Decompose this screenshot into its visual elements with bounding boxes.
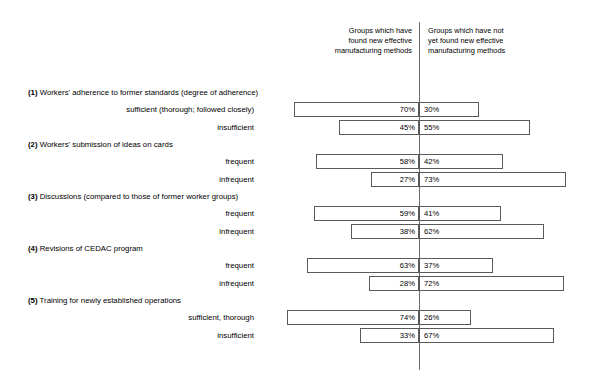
group-title: (1) Workers' adherence to former standar…	[28, 88, 258, 98]
bar-segment-right	[419, 276, 564, 291]
group-title: (4) Revisions of CEDAC program	[28, 244, 143, 254]
bar-value-left: 70%	[400, 102, 415, 117]
group-number: (2)	[28, 140, 38, 149]
bar-value-right: 41%	[424, 206, 439, 221]
bar-row: 38%62%	[0, 224, 592, 239]
bar-row: 58%42%	[0, 154, 592, 169]
group-number: (1)	[28, 88, 38, 97]
bar-row: 74%26%	[0, 310, 592, 325]
group-number: (3)	[28, 192, 38, 201]
bar-value-right: 30%	[424, 102, 439, 117]
bar-value-left: 33%	[400, 328, 415, 343]
bar-value-right: 26%	[424, 310, 439, 325]
bar-row: 45%55%	[0, 120, 592, 135]
bar-value-left: 74%	[400, 310, 415, 325]
bar-value-right: 62%	[424, 224, 439, 239]
bar-row: 27%73%	[0, 172, 592, 187]
group-title: (3) Discussions (compared to those of fo…	[28, 192, 238, 202]
bar-value-right: 73%	[424, 172, 439, 187]
bar-value-left: 63%	[400, 258, 415, 273]
bar-row: 59%41%	[0, 206, 592, 221]
group-title-text: Revisions of CEDAC program	[38, 244, 143, 253]
bar-value-right: 37%	[424, 258, 439, 273]
bar-value-left: 38%	[400, 224, 415, 239]
bar-row: 70%30%	[0, 102, 592, 117]
group-title-text: Discussions (compared to those of former…	[38, 192, 239, 201]
group-title-text: Workers' submission of ideas on cards	[38, 140, 173, 149]
bar-value-left: 27%	[400, 172, 415, 187]
bar-value-left: 59%	[400, 206, 415, 221]
bar-row: 28%72%	[0, 276, 592, 291]
bar-value-right: 55%	[424, 120, 439, 135]
group-title: (5) Training for newly established opera…	[28, 296, 181, 306]
bar-row: 63%37%	[0, 258, 592, 273]
group-number: (4)	[28, 244, 38, 253]
group-title: (2) Workers' submission of ideas on card…	[28, 140, 173, 150]
bar-value-right: 67%	[424, 328, 439, 343]
diverging-bar-chart: Groups which have found new effective ma…	[0, 0, 592, 384]
bar-row: 33%67%	[0, 328, 592, 343]
bar-value-right: 42%	[424, 154, 439, 169]
column-header-left: Groups which have found new effective ma…	[292, 26, 412, 57]
group-number: (5)	[28, 296, 38, 305]
bar-value-left: 45%	[400, 120, 415, 135]
bar-value-left: 58%	[400, 154, 415, 169]
bar-value-right: 72%	[424, 276, 439, 291]
group-title-text: Workers' adherence to former standards (…	[38, 88, 259, 97]
bar-segment-right	[419, 172, 566, 187]
group-title-text: Training for newly established operation…	[38, 296, 181, 305]
column-header-right: Groups which have not yet found new effe…	[428, 26, 548, 57]
bar-value-left: 28%	[400, 276, 415, 291]
